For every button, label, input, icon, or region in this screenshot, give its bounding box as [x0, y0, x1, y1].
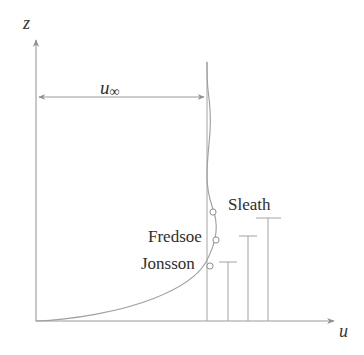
jonsson-marker	[207, 263, 213, 269]
y-axis-label: z	[23, 14, 30, 32]
fredsoe-bar	[239, 236, 257, 321]
fredsoe-marker	[213, 237, 219, 243]
jonsson-label: Jonsson	[141, 255, 195, 272]
sleath-label: Sleath	[228, 196, 271, 213]
sleath-marker	[210, 209, 216, 215]
fredsoe-label: Fredsoe	[148, 228, 202, 245]
x-axis-label: u	[339, 322, 348, 340]
free-stream-velocity-label: u∞	[100, 78, 119, 99]
diagram-canvas	[0, 0, 364, 355]
jonsson-bar	[219, 262, 237, 321]
sleath-bar	[256, 218, 281, 321]
free-stream-symbol: u	[100, 77, 110, 98]
velocity-profile-curve	[36, 62, 216, 321]
axis-group	[36, 40, 334, 321]
infinity-subscript: ∞	[110, 84, 120, 99]
velocity-profile-figure: z u u∞ Sleath Fredsoe Jonsson	[0, 0, 364, 355]
data-point-markers	[207, 209, 219, 269]
thickness-bars	[219, 218, 281, 321]
